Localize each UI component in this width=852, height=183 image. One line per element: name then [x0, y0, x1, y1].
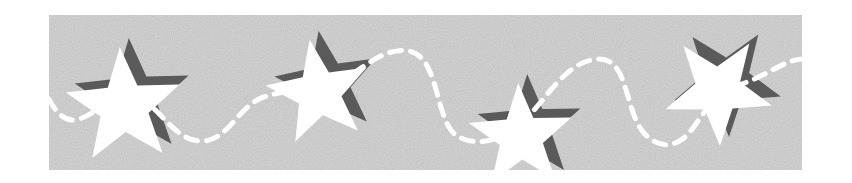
star-banner	[49, 15, 802, 170]
banner-graphic	[49, 15, 802, 170]
